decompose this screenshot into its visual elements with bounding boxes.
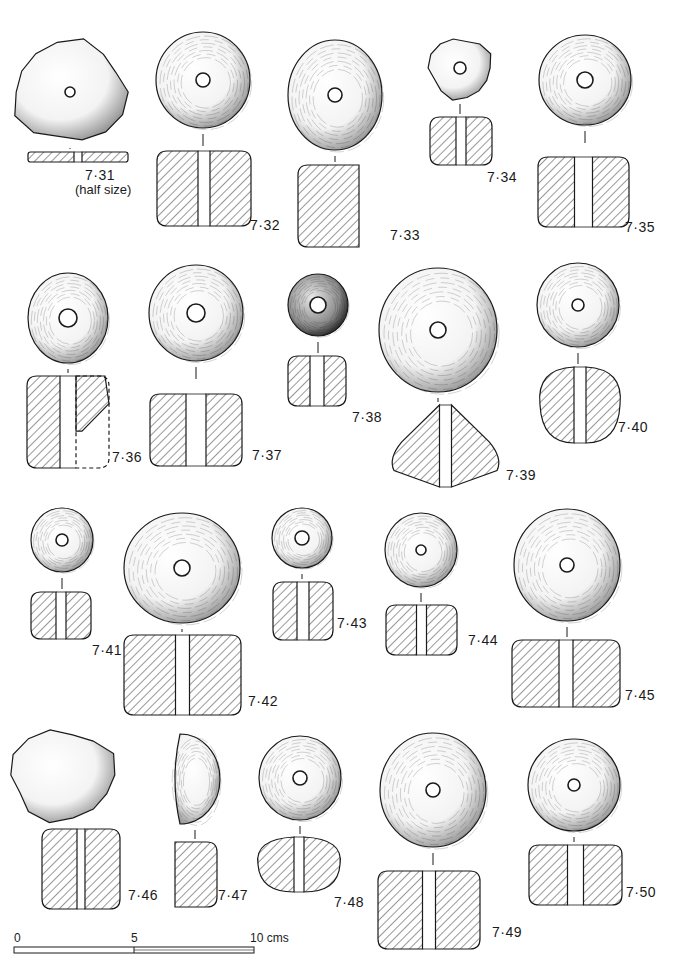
bead-figure-plate: 7·31(half size)7·327·337·347·357·367·377…	[0, 0, 673, 967]
cross-section	[298, 165, 359, 247]
bead-7-45	[512, 509, 622, 707]
plan-view	[272, 508, 333, 569]
plan-view	[539, 35, 633, 127]
bead-number-label: 7·48	[334, 895, 364, 909]
cross-section	[157, 151, 251, 226]
perforation-hole	[196, 73, 210, 87]
cross-section	[150, 394, 242, 466]
bead-7-50	[528, 739, 622, 905]
bead-7-34	[428, 39, 492, 165]
bead-7-44	[385, 513, 458, 655]
bead-number-label: 7·46	[128, 888, 158, 902]
bead-number-label: 7·31	[85, 168, 115, 182]
cross-section	[175, 842, 217, 907]
plan-view	[259, 736, 342, 821]
bead-number-label: 7·42	[248, 694, 278, 708]
perforation-hole	[310, 297, 326, 313]
perforation-hole	[293, 771, 307, 785]
cross-section	[27, 376, 109, 468]
bead-7-47	[172, 734, 221, 907]
plan-view	[172, 734, 221, 826]
perforation-hole	[577, 72, 593, 88]
plan-view	[537, 263, 620, 348]
plan-view	[124, 513, 242, 625]
plan-view	[288, 274, 349, 337]
bead-number-label: 7·32	[250, 218, 280, 232]
plan-view	[514, 509, 622, 623]
bead-7-49	[378, 733, 488, 949]
perforation-hole	[295, 531, 309, 545]
plan-view	[28, 273, 109, 365]
scale-tick-label: 5	[131, 932, 138, 944]
bead-number-label: 7·41	[92, 643, 122, 657]
plan-view	[15, 39, 128, 140]
bead-7-33	[288, 40, 384, 247]
bead-number-label: 7·39	[506, 468, 536, 482]
cross-section	[512, 640, 620, 707]
perforation-hole	[560, 558, 574, 572]
cross-section	[273, 582, 333, 640]
bead-7-46	[11, 730, 120, 909]
bead-number-label: 7·45	[625, 688, 655, 702]
cross-section	[288, 356, 346, 406]
bead-number-label: 7·43	[337, 616, 367, 630]
perforation-hole	[572, 299, 584, 311]
perforation-hole	[174, 560, 190, 576]
bead-7-31	[15, 39, 128, 162]
perforation-hole	[65, 87, 75, 97]
bead-number-label: 7·34	[487, 170, 517, 184]
bead-7-37	[149, 265, 245, 466]
cross-section	[42, 829, 120, 909]
cross-section	[124, 635, 241, 715]
bead-number-label: 7·40	[618, 420, 648, 434]
scale-bar	[14, 947, 254, 953]
bead-number-label: 7·36	[112, 450, 142, 464]
cross-section	[31, 592, 91, 639]
bead-number-label: 7·35	[625, 220, 655, 234]
bead-number-label: 7·33	[390, 228, 420, 242]
perforation-hole	[56, 534, 68, 546]
bead-number-label: 7·47	[218, 888, 248, 902]
perforation-hole	[426, 783, 440, 797]
plan-view	[380, 733, 488, 849]
perforation-hole	[187, 304, 205, 322]
scale-note: (half size)	[75, 183, 131, 196]
bead-number-label: 7·44	[468, 633, 498, 647]
cross-section	[258, 837, 341, 892]
plan-view	[31, 508, 94, 573]
plan-view	[156, 32, 252, 130]
bead-7-39	[379, 268, 499, 487]
bead-7-35	[538, 35, 633, 227]
bead-7-38	[288, 274, 349, 406]
cross-section	[378, 871, 480, 949]
plan-view	[528, 739, 622, 833]
bead-7-32	[156, 32, 252, 226]
bead-7-48	[258, 736, 343, 892]
cross-section	[529, 845, 622, 905]
perforation-hole	[416, 545, 426, 555]
cross-section	[28, 152, 128, 162]
bead-number-label: 7·38	[352, 410, 382, 424]
scale-tick-label: 10 cms	[250, 932, 289, 944]
plan-view	[288, 40, 384, 152]
plan-view	[379, 268, 499, 394]
perforation-hole	[568, 779, 580, 791]
plan-view	[428, 39, 491, 100]
bead-7-36	[27, 273, 109, 468]
scale-tick-label: 0	[14, 932, 21, 944]
perforation-hole	[430, 322, 446, 338]
cross-section	[540, 367, 621, 443]
bead-7-43	[272, 508, 333, 640]
plan-view	[11, 730, 115, 823]
bead-7-41	[31, 508, 94, 639]
cross-section	[392, 405, 499, 487]
bead-number-label: 7·37	[252, 448, 282, 462]
cross-section	[430, 117, 492, 165]
bead-number-label: 7·49	[492, 925, 522, 939]
perforation-hole	[59, 309, 77, 327]
bead-number-label: 7·50	[626, 885, 656, 899]
cross-section	[538, 157, 629, 227]
plan-view	[385, 513, 458, 588]
cross-section	[386, 605, 457, 655]
bead-7-40	[537, 263, 620, 443]
